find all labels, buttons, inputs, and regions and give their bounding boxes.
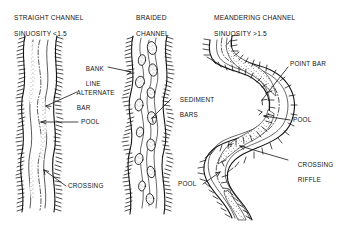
label-pool-straight: POOL xyxy=(81,118,99,126)
panel-title-meandering-line1: MEANDERING CHANNEL xyxy=(214,14,295,21)
leader-crossing-straight xyxy=(44,170,66,186)
label-crossing-riffle-line1: CROSSING xyxy=(298,161,334,168)
panel-title-meandering-line2: SINUOSITY >1.5 xyxy=(214,30,267,37)
panel-title-meandering: MEANDERING CHANNEL SINUOSITY >1.5 xyxy=(206,6,295,46)
panel-title-straight-line1: STRAIGHT CHANNEL xyxy=(14,14,83,21)
diagram-canvas: STRAIGHT CHANNEL SINUOSITY <1.5 BRAIDED … xyxy=(0,0,338,229)
leader-crossing-riffle xyxy=(240,146,288,160)
label-sediment-bars-line2: BARS xyxy=(180,111,198,118)
braided-channel-drawing xyxy=(122,36,174,214)
straight-channel-drawing xyxy=(16,36,63,212)
label-alternate-bar: ALTERNATE BAR xyxy=(69,81,115,119)
label-crossing-straight: CROSSING xyxy=(68,182,104,190)
label-bank-line-line1: BANK xyxy=(86,65,104,72)
label-alternate-bar-line1: ALTERNATE xyxy=(76,89,114,96)
label-crossing-riffle: CROSSING RIFFLE xyxy=(290,153,333,191)
label-crossing-riffle-line2: RIFFLE xyxy=(298,176,321,183)
label-point-bar: POINT BAR xyxy=(290,60,326,68)
label-sediment-bars-line1: SEDIMENT xyxy=(180,96,214,103)
panel-title-braided-line1: BRAIDED xyxy=(136,14,167,21)
label-pool-meander-left: POOL xyxy=(178,180,196,188)
panel-title-straight: STRAIGHT CHANNEL SINUOSITY <1.5 xyxy=(6,6,84,46)
label-pool-meander-right: POOL xyxy=(293,116,311,124)
label-alternate-bar-line2: BAR xyxy=(77,104,91,111)
meandering-channel-drawing xyxy=(198,35,297,220)
panel-title-straight-line2: SINUOSITY <1.5 xyxy=(14,30,67,37)
label-sediment-bars: SEDIMENT BARS xyxy=(172,88,214,126)
panel-title-braided: BRAIDED CHANNEL xyxy=(128,6,169,46)
panel-title-braided-line2: CHANNEL xyxy=(136,30,169,37)
